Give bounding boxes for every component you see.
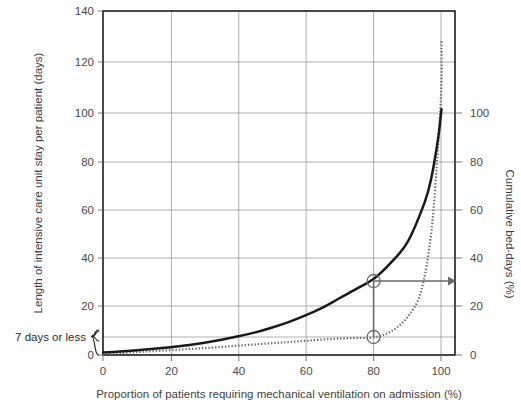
y2tick-40: 40	[470, 252, 483, 264]
y-axis-title: Length of intensive care unit stay per p…	[32, 52, 44, 313]
xtick-100: 100	[431, 365, 450, 377]
icu-bed-days-chart: 140 120 100 80 60 40 20 0 0 20 40 60 80 …	[0, 0, 521, 407]
y2-axis-title: Cumulative bed-days (%)	[504, 169, 516, 298]
y2tick-100: 100	[470, 107, 489, 119]
x-axis-ticks	[103, 355, 441, 361]
x-axis-title: Proportion of patients requiring mechani…	[96, 388, 462, 400]
xtick-0: 0	[100, 365, 106, 377]
ytick-80: 80	[81, 156, 94, 168]
brace-annotation-label: 7 days or less	[15, 331, 86, 343]
xtick-40: 40	[232, 365, 245, 377]
ytick-120: 120	[75, 56, 94, 68]
chart-figure: 140 120 100 80 60 40 20 0 0 20 40 60 80 …	[0, 0, 521, 407]
xtick-20: 20	[165, 365, 178, 377]
right-axis-tick-labels: 0 20 40 60 80 100	[470, 107, 489, 361]
y2tick-20: 20	[470, 300, 483, 312]
xtick-80: 80	[367, 365, 380, 377]
y2tick-80: 80	[470, 156, 483, 168]
plot-background	[103, 11, 455, 355]
ytick-100: 100	[75, 107, 94, 119]
left-axis-tick-labels: 140 120 100 80 60 40 20 0	[75, 5, 94, 361]
ytick-140: 140	[75, 5, 94, 17]
y2tick-0: 0	[470, 349, 476, 361]
right-axis-ticks	[455, 113, 462, 355]
x-axis-tick-labels: 0 20 40 60 80 100	[100, 365, 451, 377]
xtick-60: 60	[300, 365, 313, 377]
ytick-60: 60	[81, 204, 94, 216]
ytick-40: 40	[81, 252, 94, 264]
ytick-20: 20	[81, 300, 94, 312]
ytick-0: 0	[88, 349, 94, 361]
y2tick-60: 60	[470, 204, 483, 216]
